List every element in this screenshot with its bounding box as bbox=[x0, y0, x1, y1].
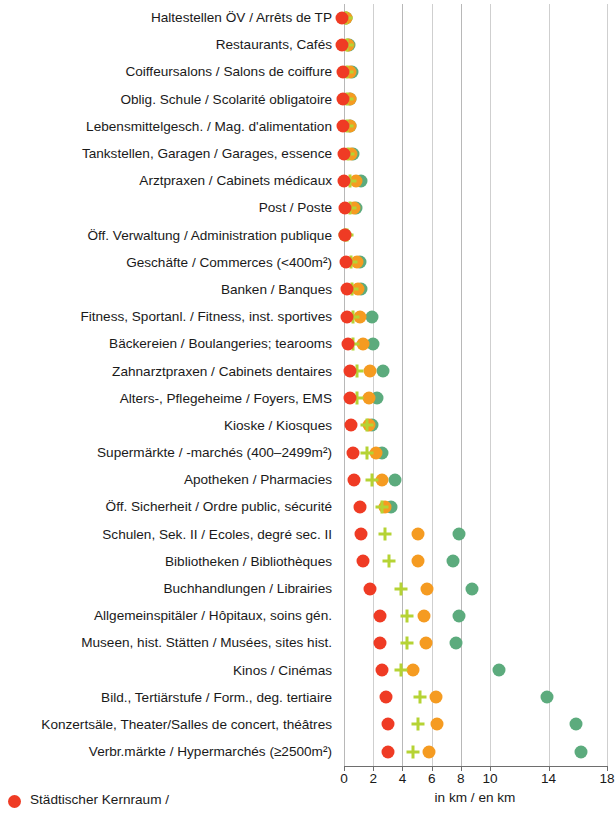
row-label: Fitness, Sportanl. / Fitness, inst. spor… bbox=[0, 309, 338, 324]
row-plot bbox=[338, 493, 601, 520]
data-point bbox=[400, 636, 413, 649]
row-label: Geschäfte / Commerces (<400m²) bbox=[0, 255, 338, 270]
row-plot bbox=[338, 548, 601, 575]
data-point bbox=[492, 664, 505, 677]
row-label: Konzertsäle, Theater/Salles de concert, … bbox=[0, 717, 338, 732]
data-point bbox=[412, 718, 425, 731]
data-point bbox=[338, 201, 351, 214]
row-plot bbox=[338, 330, 601, 357]
data-point bbox=[355, 528, 368, 541]
row-plot bbox=[338, 194, 601, 221]
data-point bbox=[422, 745, 435, 758]
chart-row: Restaurants, Cafés bbox=[0, 31, 607, 58]
row-label: Allgemeinspitäler / Hôpitaux, soins gén. bbox=[0, 608, 338, 623]
x-axis-unit-label: in km / en km bbox=[435, 790, 516, 805]
chart-row: Arztpraxen / Cabinets médicaux bbox=[0, 167, 607, 194]
chart-row: Fitness, Sportanl. / Fitness, inst. spor… bbox=[0, 303, 607, 330]
row-label: Buchhandlungen / Librairies bbox=[0, 581, 338, 596]
data-point bbox=[377, 365, 390, 378]
row-label: Haltestellen ÖV / Arrêts de TP bbox=[0, 10, 338, 25]
row-plot bbox=[338, 86, 601, 113]
data-point bbox=[364, 365, 377, 378]
row-plot bbox=[338, 629, 601, 656]
data-point bbox=[337, 120, 350, 133]
data-point bbox=[337, 174, 350, 187]
data-point bbox=[412, 555, 425, 568]
chart-row: Schulen, Sek. II / Ecoles, degré sec. II bbox=[0, 521, 607, 548]
x-tick-label-4: 4 bbox=[399, 771, 407, 786]
data-point bbox=[361, 419, 374, 432]
row-plot bbox=[338, 738, 601, 765]
data-point bbox=[348, 473, 361, 486]
chart-row: Supermärkte / -marchés (400–2499m²) bbox=[0, 439, 607, 466]
data-point bbox=[362, 392, 375, 405]
row-plot bbox=[338, 249, 601, 276]
chart-row: Coiffeursalons / Salons de coiffure bbox=[0, 58, 607, 85]
row-plot bbox=[338, 657, 601, 684]
row-plot bbox=[338, 711, 601, 738]
row-plot bbox=[338, 303, 601, 330]
data-point bbox=[343, 365, 356, 378]
row-label: Kioske / Kiosques bbox=[0, 418, 338, 433]
chart-row: Tankstellen, Garagen / Garages, essence bbox=[0, 140, 607, 167]
data-point bbox=[346, 446, 359, 459]
data-point bbox=[342, 337, 355, 350]
data-point bbox=[406, 664, 419, 677]
data-point bbox=[374, 609, 387, 622]
data-point bbox=[374, 636, 387, 649]
row-label: Apotheken / Pharmacies bbox=[0, 472, 338, 487]
chart-row: Öff. Verwaltung / Administration publiqu… bbox=[0, 222, 607, 249]
gridline-18 bbox=[607, 4, 608, 766]
data-point bbox=[419, 636, 432, 649]
row-label: Verbr.märkte / Hypermarchés (≥2500m²) bbox=[0, 744, 338, 759]
row-label: Öff. Sicherheit / Ordre public, sécurité bbox=[0, 499, 338, 514]
chart-row: Haltestellen ÖV / Arrêts de TP bbox=[0, 4, 607, 31]
data-point bbox=[540, 691, 553, 704]
chart-row: Allgemeinspitäler / Hôpitaux, soins gén. bbox=[0, 602, 607, 629]
row-label: Banken / Banques bbox=[0, 282, 338, 297]
chart-row: Apotheken / Pharmacies bbox=[0, 466, 607, 493]
row-plot bbox=[338, 684, 601, 711]
chart-rows: Haltestellen ÖV / Arrêts de TPRestaurant… bbox=[0, 4, 607, 765]
data-point bbox=[570, 718, 583, 731]
data-point bbox=[453, 609, 466, 622]
chart-row: Zahnarztpraxen / Cabinets dentaires bbox=[0, 357, 607, 384]
row-label: Bäckereien / Boulangeries; tearooms bbox=[0, 336, 338, 351]
chart-row: Museen, hist. Stätten / Musées, sites hi… bbox=[0, 629, 607, 656]
x-tick-label-0: 0 bbox=[340, 771, 348, 786]
data-point bbox=[339, 229, 352, 242]
row-plot bbox=[338, 602, 601, 629]
chart-row: Öff. Sicherheit / Ordre public, sécurité bbox=[0, 493, 607, 520]
data-point bbox=[337, 93, 350, 106]
row-plot bbox=[338, 385, 601, 412]
row-label: Bild., Tertiärstufe / Form., deg. tertia… bbox=[0, 690, 338, 705]
row-label: Tankstellen, Garagen / Garages, essence bbox=[0, 146, 338, 161]
x-tick-label-18: 18 bbox=[599, 771, 614, 786]
data-point bbox=[356, 555, 369, 568]
data-point bbox=[418, 609, 431, 622]
row-label: Alters-, Pflegeheime / Foyers, EMS bbox=[0, 391, 338, 406]
row-plot bbox=[338, 167, 601, 194]
data-point bbox=[383, 555, 396, 568]
data-point bbox=[375, 500, 388, 513]
data-point bbox=[375, 664, 388, 677]
chart-row: Kinos / Cinémas bbox=[0, 657, 607, 684]
row-plot bbox=[338, 113, 601, 140]
x-tick-label-14: 14 bbox=[541, 771, 556, 786]
chart-row: Verbr.märkte / Hypermarchés (≥2500m²) bbox=[0, 738, 607, 765]
row-label: Schulen, Sek. II / Ecoles, degré sec. II bbox=[0, 527, 338, 542]
data-point bbox=[345, 419, 358, 432]
chart-row: Bäckereien / Boulangeries; tearooms bbox=[0, 330, 607, 357]
row-label: Lebensmittelgesch. / Mag. d'alimentation bbox=[0, 119, 338, 134]
data-point bbox=[394, 664, 407, 677]
row-label: Kinos / Cinémas bbox=[0, 663, 338, 678]
data-point bbox=[447, 555, 460, 568]
data-point bbox=[380, 691, 393, 704]
data-point bbox=[335, 11, 348, 24]
chart-legend: Städtischer Kernraum / bbox=[8, 792, 169, 808]
row-label: Coiffeursalons / Salons de coiffure bbox=[0, 64, 338, 79]
row-label: Supermärkte / -marchés (400–2499m²) bbox=[0, 445, 338, 460]
chart-row: Lebensmittelgesch. / Mag. d'alimentation bbox=[0, 113, 607, 140]
data-point bbox=[337, 65, 350, 78]
row-plot bbox=[338, 412, 601, 439]
